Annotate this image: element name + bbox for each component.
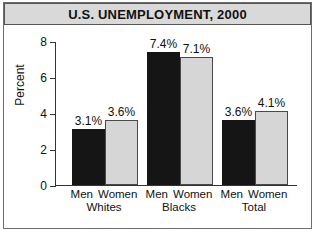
page-title: U.S. UNEMPLOYMENT, 2000 [68,7,247,22]
x-tick-label-women: Women [98,188,137,200]
x-group-label: Total [221,201,287,213]
x-axis-labels: MenWomenWhitesMenWomenBlacksMenWomenTota… [55,188,297,232]
x-tick-label-men: Men [221,188,243,200]
x-subcategory-pair: MenWomen [71,188,137,200]
x-tick-label-men: Men [71,188,93,200]
y-tick-mark [50,42,56,43]
bar-whites-men[interactable]: 3.1% [72,129,105,185]
y-tick-mark [50,186,56,187]
y-tick-label: 6 [40,71,47,85]
chart-title-bar: U.S. UNEMPLOYMENT, 2000 [4,3,311,25]
x-tick-label-men: Men [146,188,168,200]
bar-value-label: 4.1% [258,96,285,110]
bar-value-label: 3.1% [75,114,102,128]
x-subcategory-pair: MenWomen [146,188,212,200]
x-subcategory-pair: MenWomen [221,188,287,200]
chart-figure: U.S. UNEMPLOYMENT, 2000 Percent 024683.1… [0,0,315,232]
bar-value-label: 7.4% [150,37,177,51]
x-tick-label-women: Women [248,188,287,200]
y-tick-label: 4 [40,107,47,121]
bar-whites-women[interactable]: 3.6% [105,120,138,185]
y-tick-mark [50,114,56,115]
x-group-label: Whites [71,201,137,213]
y-tick-label: 8 [40,35,47,49]
bar-value-label: 3.6% [225,105,252,119]
plot-area: 024683.1%3.6%7.4%7.1%3.6%4.1% [55,42,297,186]
bar-value-label: 3.6% [108,105,135,119]
y-tick-label: 0 [40,179,47,193]
x-group-blacks: MenWomenBlacks [146,188,212,213]
y-tick-label: 2 [40,143,47,157]
x-tick-label-women: Women [173,188,212,200]
x-group-label: Blacks [146,201,212,213]
y-axis-label: Percent [13,30,27,140]
bar-total-men[interactable]: 3.6% [222,120,255,185]
x-group-whites: MenWomenWhites [71,188,137,213]
y-tick-mark [50,150,56,151]
y-tick-mark [50,78,56,79]
bar-blacks-women[interactable]: 7.1% [180,57,213,185]
x-group-total: MenWomenTotal [221,188,287,213]
bar-blacks-men[interactable]: 7.4% [147,52,180,185]
bar-value-label: 7.1% [183,42,210,56]
bar-total-women[interactable]: 4.1% [255,111,288,185]
